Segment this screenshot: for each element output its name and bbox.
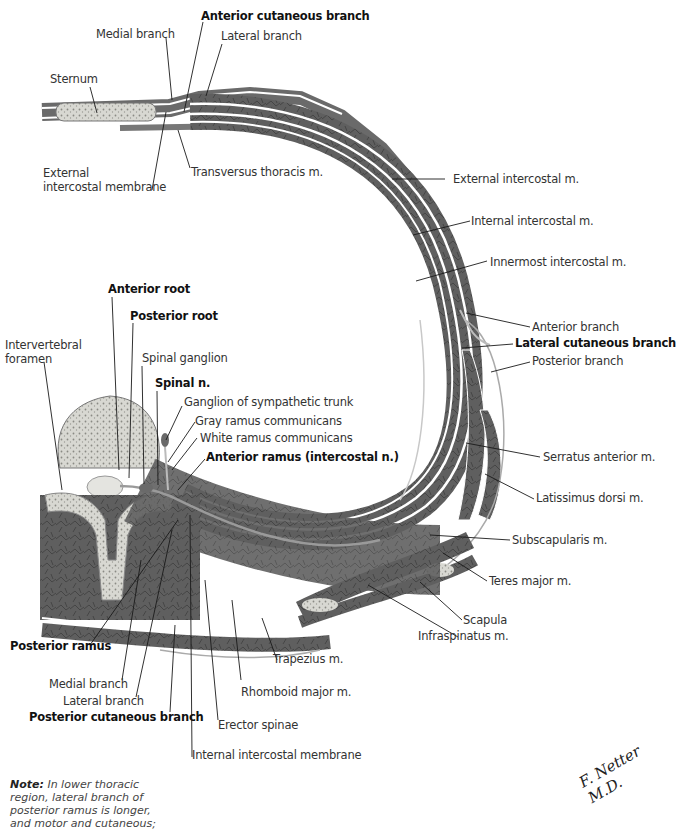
label-white-ramus: White ramus communicans [200, 432, 353, 445]
label-posterior-cutaneous-branch: Posterior cutaneous branch [29, 711, 204, 724]
label-posterior-root: Posterior root [130, 310, 218, 323]
label-sternum: Sternum [50, 73, 98, 86]
label-scapula: Scapula [463, 614, 507, 627]
label-internal-intercostal-membrane: Internal intercostal membrane [192, 749, 361, 762]
label-subscapularis: Subscapularis m. [512, 534, 607, 547]
label-anterior-branch: Anterior branch [532, 321, 619, 334]
label-medial-branch-bottom: Medial branch [49, 678, 128, 691]
label-anterior-root: Anterior root [108, 283, 190, 296]
label-intervertebral-foramen-1: Intervertebral [5, 339, 82, 352]
label-rhomboid-major: Rhomboid major m. [241, 686, 351, 699]
label-infraspinatus: Infraspinatus m. [418, 630, 508, 643]
label-trapezius: Trapezius m. [273, 653, 343, 666]
label-teres-major: Teres major m. [489, 575, 571, 588]
label-latissimus-dorsi: Latissimus dorsi m. [536, 492, 643, 505]
label-spinal-ganglion: Spinal ganglion [142, 352, 228, 365]
label-lateral-cutaneous-branch: Lateral cutaneous branch [515, 337, 676, 350]
label-lateral-branch-bottom: Lateral branch [63, 695, 144, 708]
label-posterior-branch: Posterior branch [532, 355, 623, 368]
label-ganglion-sympathetic-trunk: Ganglion of sympathetic trunk [184, 396, 353, 409]
note-text: Note: In lower thoracic region, lateral … [10, 778, 156, 830]
label-internal-intercostal: Internal intercostal m. [471, 215, 594, 228]
label-posterior-ramus: Posterior ramus [10, 640, 111, 653]
label-spinal-n: Spinal n. [155, 377, 210, 390]
label-intervertebral-foramen-2: foramen [5, 353, 52, 366]
label-erector-spinae: Erector spinae [218, 719, 298, 732]
label-gray-ramus: Gray ramus communicans [195, 415, 342, 428]
label-serratus-anterior: Serratus anterior m. [543, 451, 655, 464]
label-external-intercostal: External intercostal m. [453, 173, 579, 186]
label-external-intercostal-membrane-2: intercostal membrane [43, 181, 166, 194]
label-lateral-branch-top: Lateral branch [221, 30, 302, 43]
label-transversus-thoracis: Transversus thoracis m. [191, 166, 323, 179]
label-anterior-ramus: Anterior ramus (intercostal n.) [206, 451, 399, 464]
note-prefix: Note: [10, 778, 44, 791]
label-medial-branch-top: Medial branch [96, 28, 175, 41]
label-innermost-intercostal: Innermost intercostal m. [490, 256, 626, 269]
label-external-intercostal-membrane-1: External [43, 167, 89, 180]
label-anterior-cutaneous-branch: Anterior cutaneous branch [201, 10, 370, 23]
